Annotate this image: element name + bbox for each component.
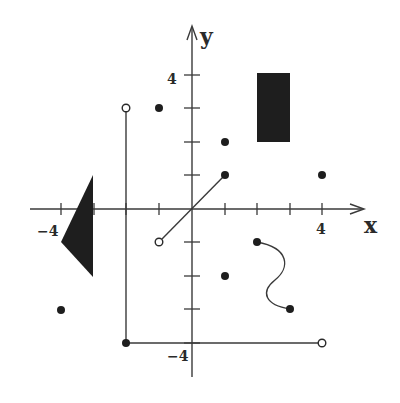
x-axis-label: x [364, 212, 378, 238]
y-tick-label-neg4: −4 [167, 348, 189, 364]
filled-triangle [61, 175, 93, 277]
point-1-2 [221, 138, 229, 146]
open-point-top [122, 104, 130, 112]
filled-rectangle [257, 73, 290, 142]
point-neg1-3 [155, 104, 163, 112]
open-point-diagonal [155, 238, 163, 246]
diagonal-segment [162, 175, 225, 239]
x-tick-label-neg4: −4 [37, 223, 59, 239]
x-tick-label-4: 4 [316, 221, 326, 237]
point-1-neg2 [221, 272, 229, 280]
coordinate-plane: x y −4 4 4 −4 [0, 0, 400, 403]
filled-point-curve-end [286, 305, 294, 313]
point-4-1 [318, 171, 326, 179]
axes [30, 26, 364, 377]
y-axis-label: y [199, 23, 214, 49]
y-tick-label-4: 4 [167, 71, 177, 87]
point-neg4-neg3 [57, 306, 65, 314]
s-curve [257, 242, 290, 309]
filled-point-corner [122, 339, 130, 347]
filled-point-curve-start [253, 238, 261, 246]
open-point-right [318, 339, 326, 347]
filled-point-diagonal-end [221, 171, 229, 179]
